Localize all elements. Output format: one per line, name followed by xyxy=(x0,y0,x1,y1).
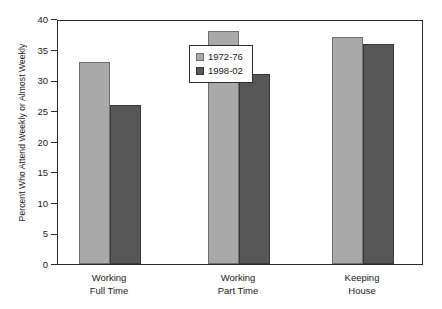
legend: 1972-76 1998-02 xyxy=(189,45,253,83)
y-axis-tick-label: 35 xyxy=(6,46,48,56)
y-axis-tick-label: 25 xyxy=(6,107,48,117)
plot-area: 1972-76 1998-02 xyxy=(57,20,423,265)
x-axis-category-label-line: Working xyxy=(178,272,298,285)
bar-chart: Percent Who Attend Weekly or Almost Week… xyxy=(0,0,442,309)
bar xyxy=(332,37,363,264)
legend-item: 1972-76 xyxy=(196,50,243,64)
x-axis-category-label-line: Part Time xyxy=(178,285,298,298)
legend-item-label: 1972-76 xyxy=(208,52,243,62)
x-axis-category-label: KeepingHouse xyxy=(302,272,422,297)
x-axis-category-label: WorkingPart Time xyxy=(178,272,298,297)
y-axis-tick-label: 0 xyxy=(6,260,48,270)
y-axis-tick-label: 10 xyxy=(6,199,48,209)
y-axis-title: Percent Who Attend Weekly or Almost Week… xyxy=(14,0,30,265)
y-axis-tick-label: 5 xyxy=(6,229,48,239)
legend-item-label: 1998-02 xyxy=(208,66,243,76)
x-axis-category-label-line: Working xyxy=(49,272,169,285)
x-axis-category-label-line: Full Time xyxy=(49,285,169,298)
x-axis-category-label-line: Keeping xyxy=(302,272,422,285)
x-axis-category-label-line: House xyxy=(302,285,422,298)
y-axis-tick-label: 40 xyxy=(6,15,48,25)
x-axis-category-label: WorkingFull Time xyxy=(49,272,169,297)
bar xyxy=(239,74,270,264)
bar xyxy=(363,44,394,265)
y-axis-tick-label: 15 xyxy=(6,168,48,178)
legend-item: 1998-02 xyxy=(196,64,243,78)
bar xyxy=(79,62,110,264)
y-axis-tick-label: 30 xyxy=(6,76,48,86)
bar xyxy=(110,105,141,264)
legend-swatch-icon xyxy=(196,53,204,61)
legend-swatch-icon xyxy=(196,67,204,75)
y-axis-tick-label: 20 xyxy=(6,138,48,148)
